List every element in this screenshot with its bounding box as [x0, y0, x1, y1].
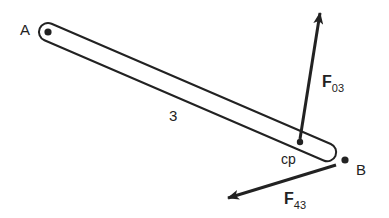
label-f43: F43	[284, 190, 306, 211]
label-f03-symbol: F	[322, 73, 332, 90]
label-f03: F03	[322, 73, 344, 94]
label-f43-subscript: 43	[294, 199, 306, 211]
label-f03-subscript: 03	[332, 82, 344, 94]
label-b: B	[356, 161, 366, 178]
force-f03-arrow	[300, 13, 320, 139]
force-f43-arrow	[228, 165, 336, 198]
label-a: A	[20, 21, 30, 38]
label-f43-symbol: F	[284, 190, 294, 207]
label-link-3: 3	[169, 107, 177, 124]
pin-b	[341, 156, 348, 163]
point-cp	[297, 139, 303, 145]
pin-a	[44, 28, 51, 35]
label-cp: cp	[281, 151, 296, 167]
link-3	[36, 20, 339, 164]
free-body-diagram: A B cp 3 F03 F43	[0, 0, 389, 218]
